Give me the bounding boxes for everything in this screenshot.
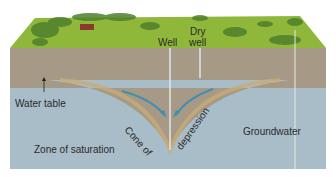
dry-well-label-line1: Dry: [190, 27, 206, 37]
house-icon: [80, 24, 94, 30]
well-label: Well: [158, 38, 177, 48]
groundwater-label: Groundwater: [243, 127, 301, 137]
water-table-label: Water table: [15, 99, 66, 109]
dry-well-label-line2: well: [189, 38, 206, 48]
zone-of-saturation-label: Zone of saturation: [34, 145, 115, 155]
